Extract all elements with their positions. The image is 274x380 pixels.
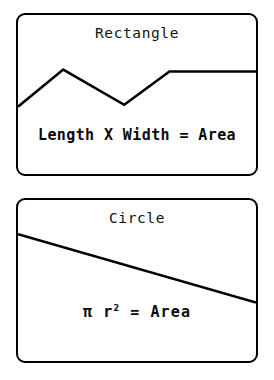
card-circle-formula: π r2 = Area [18,305,256,320]
rectangle-polyline [18,70,256,107]
card-rectangle-title: Rectangle [18,26,256,41]
circle-formula-prefix: π r [83,303,113,321]
circle-formula-suffix: = Area [120,303,191,321]
rectangle-formula-text: Length X Width = Area [38,126,236,144]
card-circle-title: Circle [18,211,256,226]
diagram-canvas: Rectangle Length X Width = Area Circle π… [0,0,274,380]
circle-trendline [18,234,256,302]
card-rectangle[interactable]: Rectangle Length X Width = Area [16,13,258,176]
card-circle[interactable]: Circle π r2 = Area [16,198,258,363]
card-rectangle-formula: Length X Width = Area [18,128,256,143]
